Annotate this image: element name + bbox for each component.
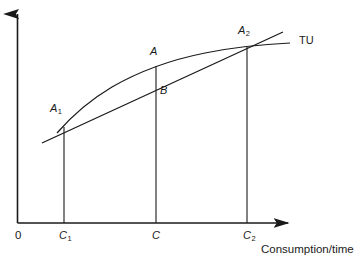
- x-tick-label-c2: C2: [243, 230, 255, 241]
- point-label-b: B: [160, 85, 167, 96]
- x-axis-title: Consumption/time: [261, 244, 354, 256]
- point-label-a2: A2: [238, 25, 250, 36]
- x-tick-c1-subscript: 1: [67, 234, 71, 243]
- origin-label: 0: [15, 230, 21, 242]
- x-tick-label-c: C: [152, 230, 160, 241]
- point-a2-subscript: 2: [246, 29, 250, 38]
- point-a1-subscript: 1: [58, 107, 62, 116]
- point-b-letter: B: [160, 84, 167, 96]
- x-tick-c1-letter: C: [59, 229, 67, 241]
- x-tick-c2-letter: C: [243, 229, 251, 241]
- point-a-letter: A: [150, 45, 157, 57]
- point-label-a: A: [150, 46, 157, 57]
- point-a2-letter: A: [238, 24, 245, 36]
- point-label-a1: A1: [50, 103, 62, 114]
- total-utility-diagram: TU A1 A B A2 0 C1 C C2 Consumption/time: [0, 0, 363, 264]
- point-a1-letter: A: [50, 102, 57, 114]
- x-tick-c2-subscript: 2: [251, 234, 255, 243]
- x-tick-c-letter: C: [152, 229, 160, 241]
- tu-curve-label: TU: [299, 35, 314, 46]
- x-tick-label-c1: C1: [59, 230, 71, 241]
